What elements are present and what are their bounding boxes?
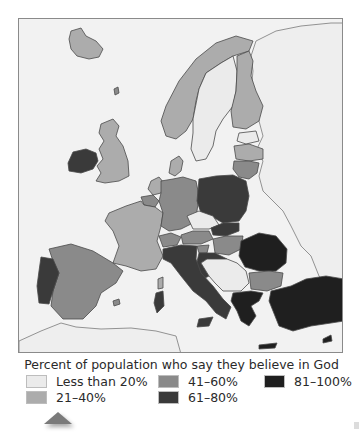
country-switzerland bbox=[159, 233, 181, 247]
legend-item-61-80: 61–80% bbox=[158, 389, 238, 405]
legend-item-81-100: 81–100% bbox=[264, 373, 352, 389]
country-balearics bbox=[113, 299, 120, 306]
country-romania bbox=[239, 233, 287, 271]
country-estonia bbox=[237, 131, 259, 144]
legend-item-lt20: Less than 20% bbox=[26, 373, 148, 389]
country-iceland bbox=[69, 28, 103, 59]
country-sicily bbox=[197, 317, 213, 327]
legend-swatch bbox=[158, 375, 179, 388]
country-cyprus bbox=[323, 335, 332, 343]
legend-swatch bbox=[26, 375, 47, 388]
legend-item-41-60: 41–60% bbox=[158, 373, 238, 389]
country-hungary bbox=[213, 236, 243, 255]
country-faroe bbox=[114, 87, 119, 95]
country-corsica bbox=[158, 277, 163, 289]
country-austria bbox=[181, 231, 213, 244]
legend-swatch bbox=[264, 375, 285, 388]
legend-title: Percent of population who say they belie… bbox=[0, 357, 363, 372]
legend-label: Less than 20% bbox=[56, 374, 148, 389]
map-svg bbox=[18, 18, 343, 353]
country-lithuania bbox=[233, 161, 259, 179]
legend-label: 81–100% bbox=[294, 374, 352, 389]
legend-label: 41–60% bbox=[188, 374, 238, 389]
legend-label: 21–40% bbox=[56, 390, 106, 405]
country-united-kingdom bbox=[96, 119, 129, 183]
legend-label: 61–80% bbox=[188, 390, 238, 405]
legend-swatch bbox=[26, 391, 47, 404]
corner-mark bbox=[354, 422, 359, 429]
north-africa bbox=[19, 323, 181, 353]
country-france bbox=[105, 201, 163, 271]
triangle-arrow-icon bbox=[44, 412, 72, 424]
country-slovenia bbox=[197, 245, 209, 253]
country-greece bbox=[231, 291, 263, 326]
legend-swatch bbox=[158, 391, 179, 404]
europe-map bbox=[18, 18, 343, 353]
country-ireland bbox=[68, 149, 98, 173]
legend-item-21-40: 21–40% bbox=[26, 389, 106, 405]
country-denmark bbox=[169, 156, 183, 176]
country-bulgaria bbox=[249, 271, 283, 291]
country-crete bbox=[259, 343, 277, 349]
country-spain bbox=[49, 244, 123, 319]
country-sardinia bbox=[154, 291, 164, 313]
